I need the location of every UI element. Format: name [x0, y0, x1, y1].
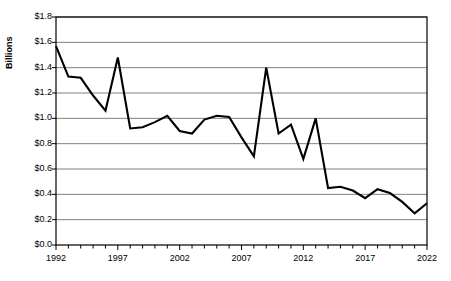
x-axis-tick-label: 2017 — [345, 254, 385, 263]
x-axis-tick-label: 1997 — [98, 254, 138, 263]
x-axis-tick-label: 2002 — [160, 254, 200, 263]
line-chart: Billions $1.8$1.6$1.4$1.2$1.0$0.8$0.6$0.… — [0, 0, 451, 281]
x-axis-tick-label: 2012 — [283, 254, 323, 263]
x-axis-tick-labels: 1992199720022007201220172022 — [0, 0, 451, 281]
x-axis-tick-label: 1992 — [36, 254, 76, 263]
x-axis-tick-label: 2022 — [407, 254, 447, 263]
x-axis-tick-label: 2007 — [222, 254, 262, 263]
